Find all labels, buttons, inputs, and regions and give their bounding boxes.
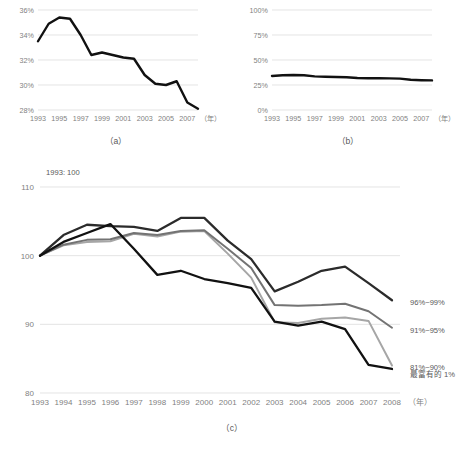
chart-panel-b: 0%25%50%75%100%1993199519971999200120032… <box>232 0 464 160</box>
series-label-0: 96%~99% <box>410 298 445 307</box>
x-tick-label: 2003 <box>137 114 153 123</box>
x-axis-unit-label: （年） <box>408 397 432 407</box>
x-tick-label: 2004 <box>289 398 307 407</box>
data-line-a <box>38 18 198 109</box>
x-axis-labels: 1993199419951996199719981999200020012002… <box>31 397 432 407</box>
x-axis-labels: 19931995199719992001200320052007（年） <box>30 114 221 123</box>
x-tick-label: 2007 <box>360 398 378 407</box>
x-tick-label: 1999 <box>94 114 110 123</box>
y-tick-label: 100 <box>21 252 35 261</box>
x-axis-unit-label: （年） <box>200 114 221 123</box>
x-tick-label: 1999 <box>172 398 190 407</box>
chart-a-plot: 28%30%32%34%36%1993199519971999200120032… <box>0 0 232 132</box>
chart-c-plot: 1993: 1008090100110199319941995199619971… <box>0 163 464 425</box>
x-tick-label: 2007 <box>179 114 195 123</box>
data-line-series-1 <box>40 230 392 328</box>
x-tick-label: 1998 <box>148 398 166 407</box>
x-tick-label: 1997 <box>125 398 143 407</box>
gridlines-group <box>40 187 400 393</box>
x-tick-label: 2005 <box>313 398 331 407</box>
x-tick-label: 2006 <box>336 398 354 407</box>
x-tick-label: 2003 <box>266 398 284 407</box>
chart-b-plot: 0%25%50%75%100%1993199519971999200120032… <box>232 0 464 132</box>
x-tick-label: 1993 <box>31 398 49 407</box>
x-tick-label: 2002 <box>242 398 260 407</box>
x-tick-label: 2001 <box>219 398 237 407</box>
x-tick-label: 2001 <box>115 114 131 123</box>
x-tick-label: 1993 <box>264 114 280 123</box>
x-tick-label: 1995 <box>78 398 96 407</box>
x-tick-label: 1995 <box>51 114 67 123</box>
x-tick-label: 2005 <box>392 114 408 123</box>
x-tick-label: 2000 <box>195 398 213 407</box>
data-line-b <box>272 75 432 80</box>
x-tick-label: 2003 <box>371 114 387 123</box>
x-tick-label: 1994 <box>55 398 73 407</box>
data-line-series-3 <box>40 224 392 369</box>
y-axis-labels: 8090100110 <box>21 183 35 398</box>
chart-panel-a: 28%30%32%34%36%1993199519971999200120032… <box>0 0 232 160</box>
chart-panel-c: 1993: 1008090100110199319941995199619971… <box>0 163 464 450</box>
y-axis-labels: 0%25%50%75%100% <box>250 6 269 115</box>
x-tick-label: 1993 <box>30 114 46 123</box>
y-tick-label: 80 <box>25 389 34 398</box>
x-tick-label: 2008 <box>383 398 401 407</box>
x-tick-label: 1997 <box>73 114 89 123</box>
y-tick-label: 25% <box>254 81 269 90</box>
y-tick-label: 36% <box>20 6 35 15</box>
gridlines-group <box>38 10 198 110</box>
x-tick-label: 1996 <box>102 398 120 407</box>
y-tick-label: 110 <box>21 183 34 192</box>
series-label-1: 91%~95% <box>410 326 445 335</box>
caption-c: （c） <box>0 421 464 433</box>
x-axis-labels: 19931995199719992001200320052007（年） <box>264 114 455 123</box>
gridlines-group <box>272 10 432 110</box>
caption-a: （a） <box>0 134 232 146</box>
y-tick-label: 100% <box>250 6 269 15</box>
series-label-3: 最富有的 1% <box>410 369 455 379</box>
y-tick-label: 30% <box>20 81 35 90</box>
x-tick-label: 2005 <box>158 114 174 123</box>
y-axis-labels: 28%30%32%34%36% <box>20 6 35 115</box>
y-tick-label: 34% <box>20 31 35 40</box>
y-tick-label: 90 <box>25 320 34 329</box>
x-tick-label: 1995 <box>285 114 301 123</box>
x-tick-label: 1997 <box>307 114 323 123</box>
x-axis-unit-label: （年） <box>434 114 455 123</box>
x-tick-label: 2007 <box>413 114 429 123</box>
y-tick-label: 32% <box>20 56 35 65</box>
x-tick-label: 1999 <box>328 114 344 123</box>
y-tick-label: 75% <box>254 31 269 40</box>
y-tick-label: 50% <box>254 56 269 65</box>
data-line-series-2 <box>40 231 392 366</box>
caption-b: （b） <box>232 134 464 146</box>
x-tick-label: 2001 <box>349 114 365 123</box>
chart-c-note: 1993: 100 <box>46 168 80 177</box>
